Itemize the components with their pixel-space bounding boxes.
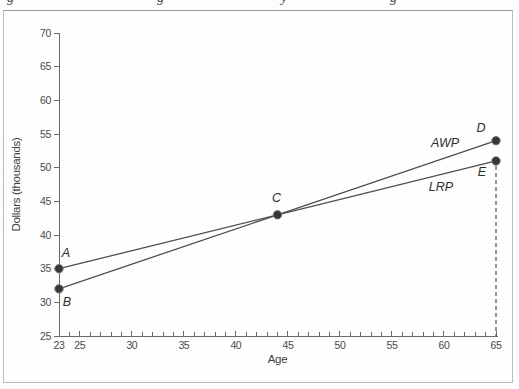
point-label-A: A [61, 246, 70, 260]
point-label-B: B [63, 295, 71, 309]
point-C [273, 211, 281, 219]
x-tick-label: 35 [178, 339, 189, 351]
x-axis-title: Age [268, 353, 288, 365]
point-B [55, 285, 63, 293]
x-tick-label: 65 [491, 339, 502, 351]
age-earnings-line-chart: 2530354045505560657023253035404550556065… [0, 0, 519, 389]
point-E [492, 157, 500, 165]
y-tick-label: 40 [40, 229, 51, 241]
series-label-lrp: LRP [429, 180, 454, 194]
x-tick-label: 40 [230, 339, 241, 351]
y-tick-label: 60 [40, 94, 51, 106]
y-tick-label: 45 [40, 195, 51, 207]
y-axis-title: Dollars (thousands) [10, 137, 22, 231]
point-label-C: C [272, 191, 282, 205]
point-label-D: D [476, 121, 485, 135]
series-label-awp: AWP [430, 136, 460, 150]
y-tick-label: 50 [40, 161, 51, 173]
point-A [55, 264, 63, 272]
y-tick-label: 25 [40, 330, 51, 342]
x-tick-label: 45 [282, 339, 293, 351]
x-tick-label: 25 [74, 339, 85, 351]
y-tick-label: 65 [40, 60, 51, 72]
x-tick-label: 23 [54, 339, 65, 351]
x-tick-label: 60 [439, 339, 450, 351]
x-tick-label: 55 [387, 339, 398, 351]
y-tick-label: 70 [40, 27, 51, 39]
point-D [492, 137, 500, 145]
y-tick-label: 30 [40, 296, 51, 308]
y-tick-label: 35 [40, 262, 51, 274]
x-tick-label: 30 [126, 339, 137, 351]
screenshot-stage: ggyg 25303540455055606570232530354045505… [0, 0, 519, 389]
x-tick-label: 50 [334, 339, 345, 351]
y-tick-label: 55 [40, 128, 51, 140]
point-label-E: E [478, 165, 487, 179]
